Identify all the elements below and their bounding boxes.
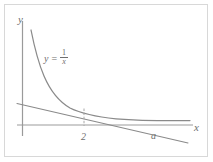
equation-lhs: y [44, 54, 48, 64]
tangent-line [17, 104, 188, 144]
plot-canvas [0, 0, 213, 162]
x-axis-label: x [194, 122, 199, 133]
fraction-denominator: x [60, 58, 68, 66]
hyperbola-curve [31, 30, 190, 121]
equation-equals-sign: = [50, 54, 58, 64]
fraction-numerator: 1 [60, 49, 68, 57]
x-tick-label-a: a [151, 131, 156, 141]
x-tick-label-2: 2 [81, 132, 86, 142]
equation-fraction: 1 x [60, 49, 68, 67]
curve-equation-label: y = 1 x [44, 50, 68, 68]
figure-root: y x 2 a y = 1 x [0, 0, 213, 162]
y-axis-label: y [18, 14, 23, 25]
